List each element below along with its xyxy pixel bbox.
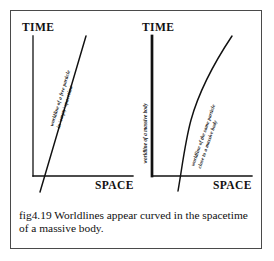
space-axis-label-left: SPACE [95, 180, 134, 192]
annotation-massive-body-line1: worldline of a massive body [142, 103, 149, 163]
time-axis-label-right: TIME [142, 22, 174, 34]
annotation-massive-body-worldline: worldline of a massive body [142, 103, 149, 163]
figure-caption: fig4.19 Worldlines appear curved in the … [19, 209, 253, 236]
time-axis-label-left: TIME [22, 22, 54, 34]
space-axis-label-right: SPACE [213, 180, 252, 192]
figure-root: TIME SPACE TIME SPACE worldline of a fre… [0, 0, 274, 261]
